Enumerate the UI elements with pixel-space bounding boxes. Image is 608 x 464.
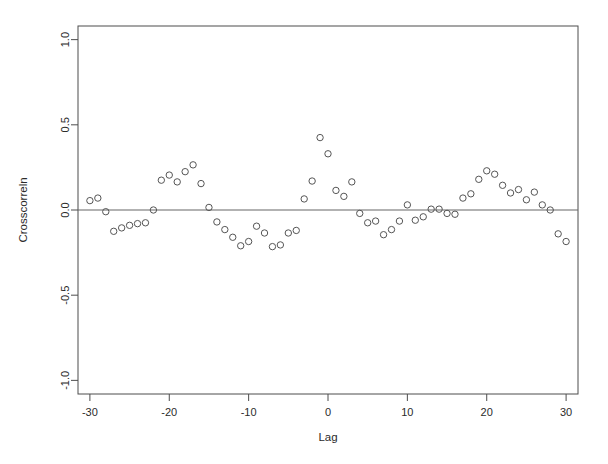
data-point [301,196,307,202]
data-point [293,227,299,233]
x-tick-label: -30 [82,406,98,418]
data-point [357,210,363,216]
data-point [364,220,370,226]
data-point [563,238,569,244]
data-point [531,189,537,195]
data-point [285,230,291,236]
chart-container: -30-20-100102030 -1.0-0.50.00.51.0 Lag C… [0,0,608,464]
data-point [87,197,93,203]
y-axis-ticks: -1.0-0.50.00.51.0 [59,32,78,390]
data-point [396,218,402,224]
data-point [166,172,172,178]
data-point [222,226,228,232]
data-point [198,180,204,186]
data-point [142,220,148,226]
data-point [118,225,124,231]
data-point [158,177,164,183]
crosscorrelation-scatter-plot: -30-20-100102030 -1.0-0.50.00.51.0 Lag C… [0,0,608,464]
x-tick-label: 30 [560,406,572,418]
x-tick-label: -20 [161,406,177,418]
data-point [245,238,251,244]
x-axis-ticks: -30-20-100102030 [82,394,572,418]
data-point [349,179,355,185]
data-point [491,171,497,177]
data-point [269,243,275,249]
data-point [134,220,140,226]
data-point [404,202,410,208]
data-point [444,210,450,216]
data-point [190,162,196,168]
y-tick-label: 0.0 [59,202,71,217]
data-point [111,228,117,234]
data-point [341,193,347,199]
data-point [539,202,545,208]
data-point [388,226,394,232]
data-point [452,211,458,217]
x-tick-label: 20 [481,406,493,418]
data-point [460,195,466,201]
data-point [555,231,561,237]
data-point [476,176,482,182]
y-tick-label: 1.0 [59,32,71,47]
y-tick-label: -0.5 [59,286,71,305]
data-point [380,232,386,238]
data-point [507,190,513,196]
data-point [253,223,259,229]
data-point [309,178,315,184]
data-point [333,187,339,193]
data-point [277,242,283,248]
y-tick-label: -1.0 [59,371,71,390]
data-point [238,243,244,249]
data-point [372,218,378,224]
data-point [468,191,474,197]
y-tick-label: 0.5 [59,117,71,132]
x-tick-label: 10 [401,406,413,418]
y-axis-title: Crosscorreln [17,177,29,242]
data-point [214,219,220,225]
x-tick-label: -10 [241,406,257,418]
data-point [230,234,236,240]
data-point [95,195,101,201]
data-point [325,151,331,157]
data-point [182,168,188,174]
data-points [87,134,570,249]
data-point [428,206,434,212]
data-point [126,222,132,228]
data-point [515,186,521,192]
data-point [499,182,505,188]
data-point [261,230,267,236]
data-point [523,197,529,203]
data-point [436,206,442,212]
x-tick-label: 0 [325,406,331,418]
data-point [174,179,180,185]
x-axis-title: Lag [318,431,337,443]
data-point [412,217,418,223]
data-point [484,168,490,174]
data-point [420,214,426,220]
data-point [317,134,323,140]
